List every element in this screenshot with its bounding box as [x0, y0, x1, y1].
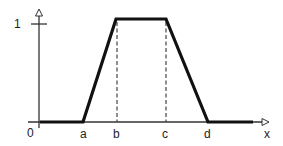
point-label-d: d	[204, 127, 211, 141]
point-label-b: b	[113, 127, 120, 141]
x-axis-label: x	[264, 127, 270, 141]
trapezoid-membership-diagram: 1 0 a b c d x	[0, 0, 283, 146]
membership-curve	[40, 19, 253, 122]
point-label-a: a	[80, 127, 87, 141]
point-label-c: c	[162, 127, 168, 141]
y-axis-arrow-icon	[36, 9, 43, 16]
x-axis-arrow-icon	[262, 119, 269, 126]
y-tick-label: 1	[14, 17, 21, 31]
origin-label: 0	[27, 126, 34, 140]
